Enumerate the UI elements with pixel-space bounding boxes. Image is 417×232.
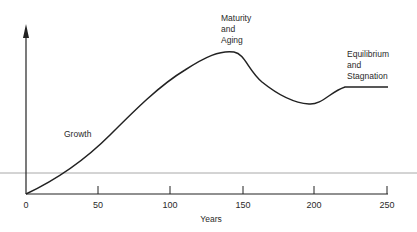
y-axis-arrow-icon [23, 24, 29, 38]
x-ticks [98, 186, 387, 194]
diagram-canvas [0, 0, 417, 232]
maturity-label: Maturity and Aging [221, 13, 251, 46]
x-tick-200: 200 [306, 200, 321, 210]
x-axis-label: Years [200, 214, 221, 224]
x-tick-50: 50 [93, 200, 103, 210]
x-tick-150: 150 [235, 200, 250, 210]
x-tick-250: 250 [379, 200, 394, 210]
x-tick-100: 100 [162, 200, 177, 210]
growth-label: Growth [64, 129, 91, 140]
equilibrium-label: Equilibrium and Stagnation [347, 49, 389, 82]
x-tick-0: 0 [23, 200, 28, 210]
